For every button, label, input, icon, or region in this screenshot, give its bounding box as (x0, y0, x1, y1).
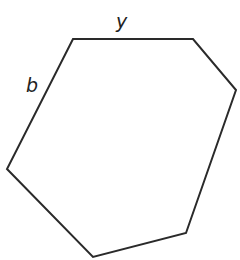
diagram-canvas (0, 0, 240, 260)
side-label-y: y (116, 12, 127, 31)
side-label-b: b (26, 76, 38, 95)
hexagon-shape (7, 39, 236, 257)
